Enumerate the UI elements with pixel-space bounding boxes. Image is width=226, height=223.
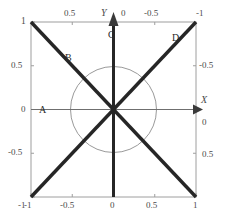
right-tick-label-05: 0.5 xyxy=(202,150,213,159)
left-tick-label-0: 0 xyxy=(21,105,26,114)
bottom-tick-label-3: 0.5 xyxy=(146,201,157,210)
x-axis-arrow xyxy=(193,105,203,115)
label-b: B xyxy=(65,53,72,63)
label-a: A xyxy=(39,105,46,115)
bottom-tick-label-1: -0.5 xyxy=(60,201,74,210)
label-d: D xyxy=(172,33,179,43)
top-tick-label-0: 0 xyxy=(121,9,126,18)
left-tick-label-neg1: -1 xyxy=(18,201,26,210)
top-tick-label-05: 0.5 xyxy=(64,9,75,18)
bottom-tick-label-4: 1 xyxy=(193,201,198,210)
label-c: C xyxy=(108,30,115,40)
plot-figure: -1 -0.5 0 0.5 1 1 0.5 0 -0.5 -1 0.5 0 -0… xyxy=(0,0,226,223)
y-axis-label: Y xyxy=(101,8,107,18)
y-axis-arrow xyxy=(109,12,119,26)
left-tick-label-05: 0.5 xyxy=(11,61,22,70)
top-tick-label-neg05: -0.5 xyxy=(144,9,158,18)
top-tick-label-neg1: -1 xyxy=(196,9,204,18)
x-axis-label: X xyxy=(201,95,207,105)
right-tick-label-0: 0 xyxy=(202,118,207,127)
right-tick-label-neg05: -0.5 xyxy=(199,61,213,70)
left-tick-label-1: 1 xyxy=(21,17,26,27)
left-tick-label-neg05: -0.5 xyxy=(8,148,22,157)
bottom-tick-label-2: 0 xyxy=(110,201,115,210)
